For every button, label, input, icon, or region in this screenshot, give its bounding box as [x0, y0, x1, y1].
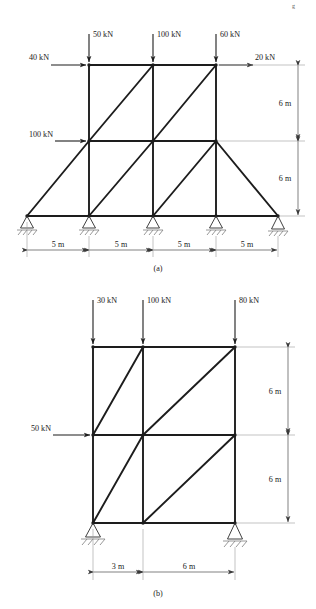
- member-diagonal-lower-3: [216, 141, 278, 216]
- fig-a-supports: [17, 216, 288, 236]
- joint: [87, 139, 90, 142]
- figure-b-caption: (b): [153, 589, 163, 598]
- load-label-50kn-b: 50 kN: [31, 424, 51, 433]
- joint: [151, 139, 154, 142]
- fig-b-horizontal-loads: 50 kN: [31, 424, 90, 435]
- load-label-100kn: 100 kN: [157, 30, 181, 39]
- fig-b-supports: [81, 523, 247, 547]
- dim-label-6m-1: 6 m: [279, 99, 292, 108]
- load-label-60kn: 60 kN: [220, 30, 240, 39]
- figure-canvas: g 50 kN 100 kN 60 kN 40 kN 20 kN 100 kN: [0, 0, 316, 609]
- member-diagonal-upper-2: [153, 65, 216, 141]
- joint: [233, 433, 236, 436]
- load-label-50kn: 50 kN: [93, 30, 113, 39]
- joint: [87, 63, 90, 66]
- dim-label-5m-3: 5 m: [178, 240, 191, 249]
- load-label-20kn: 20 kN: [255, 53, 275, 62]
- dim-label-6m-2: 6 m: [279, 174, 292, 183]
- fig-b-vertical-loads: 30 kN 100 kN 80 kN: [93, 296, 259, 344]
- support-pin: [223, 523, 247, 547]
- fig-a-vertical-dimensions: 6 m 6 m: [218, 65, 305, 216]
- member-diagonal-lower-1: [93, 435, 143, 523]
- joint: [91, 345, 94, 348]
- load-label-100kn-lateral: 100 kN: [29, 130, 53, 139]
- support-pin: [143, 216, 163, 235]
- joint: [141, 521, 144, 524]
- joint: [141, 345, 144, 348]
- fig-a-horizontal-dimensions: 5 m 5 m 5 m 5 m: [27, 222, 278, 257]
- joint: [233, 345, 236, 348]
- dim-label-6m: 6 m: [183, 562, 196, 571]
- joint: [151, 63, 154, 66]
- member-diagonal-upper-1: [89, 65, 153, 141]
- figure-a: 50 kN 100 kN 60 kN 40 kN 20 kN 100 kN: [17, 30, 305, 273]
- member-diagonal-lower-0: [27, 141, 89, 216]
- load-label-40kn: 40 kN: [29, 53, 49, 62]
- member-diagonal-upper-2: [143, 347, 235, 435]
- joint: [141, 433, 144, 436]
- member-diagonal-lower-1: [89, 141, 153, 216]
- dim-label-6m-v1: 6 m: [269, 387, 282, 396]
- page-header-mark: g: [292, 3, 295, 9]
- joint: [214, 139, 217, 142]
- support-pin: [206, 216, 226, 235]
- fig-a-vertical-loads: 50 kN 100 kN 60 kN: [89, 30, 240, 62]
- member-diagonal-upper-1: [93, 347, 143, 435]
- support-pin: [268, 216, 288, 236]
- dim-label-3m: 3 m: [112, 562, 125, 571]
- dim-label-5m-1: 5 m: [52, 240, 65, 249]
- fig-b-members: [93, 347, 235, 523]
- member-diagonal-lower-2: [153, 141, 216, 216]
- figure-a-caption: (a): [154, 264, 163, 273]
- joint: [91, 433, 94, 436]
- dim-label-5m-4: 5 m: [241, 240, 254, 249]
- member-diagonal-lower-2: [143, 435, 235, 523]
- dim-label-5m-2: 5 m: [115, 240, 128, 249]
- figure-b: 30 kN 100 kN 80 kN 50 kN: [31, 296, 295, 598]
- dim-label-6m-v2: 6 m: [269, 475, 282, 484]
- support-pin: [79, 216, 99, 235]
- fig-b-vertical-dimensions: 6 m 6 m: [237, 347, 295, 523]
- load-label-30kn: 30 kN: [97, 296, 117, 305]
- joint: [214, 63, 217, 66]
- load-label-100kn-b: 100 kN: [147, 296, 171, 305]
- structural-figure-page: g 50 kN 100 kN 60 kN 40 kN 20 kN 100 kN: [0, 0, 316, 609]
- fig-b-horizontal-dimensions: 3 m 6 m: [93, 529, 235, 580]
- load-label-80kn: 80 kN: [239, 296, 259, 305]
